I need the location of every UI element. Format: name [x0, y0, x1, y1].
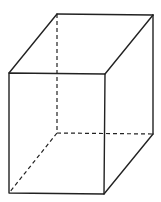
hidden-edge-bottom-left: [9, 133, 57, 193]
edge-bottom-right: [104, 134, 153, 194]
edge-top-right: [105, 15, 153, 74]
cuboid-diagram: [0, 0, 161, 202]
edge-top-back: [57, 14, 153, 15]
edge-top-left: [9, 14, 57, 73]
